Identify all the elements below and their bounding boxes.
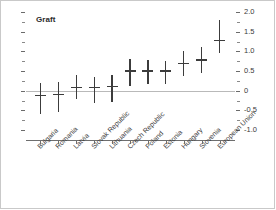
point-estimate-bar — [71, 87, 82, 88]
point-estimate-bar — [125, 70, 136, 71]
data-point-marker — [53, 0, 64, 140]
point-estimate-bar — [142, 70, 153, 71]
y-tick-left — [21, 130, 25, 131]
y-tick-left — [21, 51, 25, 52]
x-tick — [58, 141, 59, 144]
x-tick — [202, 141, 203, 144]
y-tick-right — [236, 12, 240, 13]
x-tick — [184, 141, 185, 144]
data-point-marker — [107, 0, 118, 140]
y-minor-tick-left — [22, 101, 25, 102]
y-tick-left — [21, 32, 25, 33]
y-tick-right — [236, 91, 240, 92]
point-estimate-bar — [89, 87, 100, 88]
y-tick-label: 0 — [244, 86, 248, 95]
data-point-marker — [160, 0, 171, 140]
data-point-marker — [142, 0, 153, 140]
y-tick-right — [236, 51, 240, 52]
y-minor-tick-right — [237, 101, 240, 102]
point-estimate-bar — [178, 63, 189, 64]
y-minor-tick-left — [22, 42, 25, 43]
error-bar-whisker — [94, 77, 95, 103]
x-tick — [130, 141, 131, 144]
data-point-marker — [35, 0, 46, 140]
error-bar-whisker — [111, 75, 112, 102]
y-tick-right — [236, 71, 240, 72]
data-point-marker — [125, 0, 136, 140]
point-estimate-bar — [160, 70, 171, 71]
graft-chart: Graft 2.01.51.00.50-0.5-1.0 BulgariaRoma… — [0, 0, 276, 210]
error-bar-whisker — [165, 61, 166, 83]
error-bar-whisker — [219, 20, 220, 53]
point-estimate-bar — [214, 40, 225, 41]
y-tick-right — [236, 32, 240, 33]
y-tick-label: 1.5 — [244, 27, 254, 36]
x-tick — [166, 141, 167, 144]
error-bar-whisker — [40, 83, 41, 115]
x-tick — [40, 141, 41, 144]
y-minor-tick-left — [22, 81, 25, 82]
error-bar-whisker — [129, 59, 130, 86]
error-bar-whisker — [147, 60, 148, 84]
y-tick-label: 2.0 — [244, 7, 254, 16]
y-minor-tick-left — [22, 22, 25, 23]
data-point-marker — [89, 0, 100, 140]
y-minor-tick-right — [237, 81, 240, 82]
point-estimate-bar — [196, 59, 207, 60]
y-minor-tick-left — [22, 61, 25, 62]
y-minor-tick-right — [237, 22, 240, 23]
error-bar-whisker — [58, 82, 59, 112]
x-tick — [112, 141, 113, 144]
data-point-marker — [214, 0, 225, 140]
y-tick-label: 0.5 — [244, 66, 254, 75]
y-tick-left — [21, 110, 25, 111]
x-tick — [94, 141, 95, 144]
point-estimate-bar — [35, 95, 46, 96]
y-tick-left — [21, 12, 25, 13]
point-estimate-bar — [53, 94, 64, 95]
x-tick — [220, 141, 221, 144]
y-tick-label: -1.0 — [244, 125, 257, 134]
point-estimate-bar — [107, 86, 118, 87]
y-tick-left — [21, 71, 25, 72]
data-point-marker — [71, 0, 82, 140]
data-point-marker — [178, 0, 189, 140]
data-point-marker — [196, 0, 207, 140]
y-tick-right — [236, 110, 240, 111]
x-tick — [76, 141, 77, 144]
y-minor-tick-right — [237, 61, 240, 62]
x-tick — [148, 141, 149, 144]
y-minor-tick-right — [237, 42, 240, 43]
y-tick-label: 1.0 — [244, 46, 254, 55]
y-tick-left — [21, 91, 25, 92]
y-minor-tick-left — [22, 120, 25, 121]
